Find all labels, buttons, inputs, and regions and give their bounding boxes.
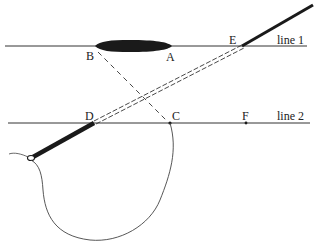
diagram-svg: B A E line 1 D C F line 2	[0, 0, 317, 246]
label-line-1: line 1	[277, 33, 304, 47]
label-line-2: line 2	[277, 109, 304, 123]
label-point-c: C	[172, 109, 180, 123]
diagram-canvas: B A E line 1 D C F line 2	[0, 0, 317, 246]
label-point-a: A	[166, 50, 175, 64]
label-point-e: E	[229, 33, 236, 47]
rod-lower	[33, 123, 94, 157]
fishing-line-stub	[9, 153, 28, 157]
label-point-d: D	[85, 109, 94, 123]
float-shape	[95, 40, 172, 52]
label-point-f: F	[242, 109, 249, 123]
dashed-bc	[98, 52, 168, 122]
rod-eyelet	[28, 156, 35, 161]
label-point-b: B	[86, 49, 94, 63]
fishing-line-loop	[31, 123, 173, 240]
